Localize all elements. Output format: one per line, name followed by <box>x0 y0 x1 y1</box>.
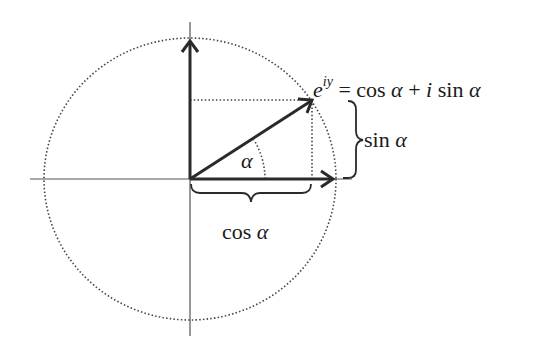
sin-alpha: α <box>395 127 407 152</box>
diagram-canvas <box>0 0 552 352</box>
euler-alpha-2: α <box>469 77 481 102</box>
euler-exponent: iy <box>323 74 333 89</box>
cos-label: cos α <box>222 221 268 243</box>
cos-alpha: α <box>257 219 269 244</box>
euler-alpha-1: α <box>391 77 403 102</box>
euler-rhs-2: + <box>403 77 426 102</box>
angle-arc <box>254 140 265 179</box>
angle-label: α <box>241 150 253 172</box>
sin-label: sin α <box>364 129 407 151</box>
sin-brace <box>343 101 363 178</box>
cos-brace <box>191 184 311 202</box>
euler-base: e <box>313 77 323 102</box>
sin-text: sin <box>364 127 395 152</box>
cos-text: cos <box>222 219 257 244</box>
euler-formula-label: eiy = cos α + i sin α <box>313 79 480 101</box>
euler-diagram: eiy = cos α + i sin α sin α cos α α <box>0 0 552 352</box>
euler-rhs-3: sin <box>432 77 469 102</box>
euler-rhs-1: = cos <box>333 77 391 102</box>
